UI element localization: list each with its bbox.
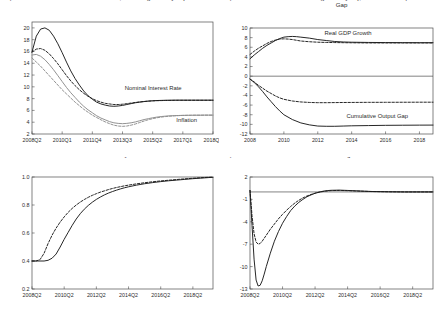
- x-tick-label: 2014Q2: [338, 292, 357, 298]
- chart-svg-real-exchange-rate: Real Exchange Rateb2-1-4-7-10-132008Q220…: [220, 157, 439, 313]
- x-tick-label: 2017Q1: [173, 137, 192, 143]
- chart-panel-real-exchange-rate: Real Exchange Rateb2-1-4-7-10-132008Q220…: [220, 157, 439, 313]
- chart-svg-credibility-stock: Credibility Stock1.00.80.60.40.22008Q220…: [0, 157, 219, 313]
- y-axis-label: (per cent): [0, 0, 12, 1]
- x-tick-label: 2012Q2: [87, 292, 106, 298]
- x-tick-label: 2012Q2: [306, 292, 325, 298]
- x-tick-label: 2008Q2: [241, 292, 260, 298]
- x-tick-label: 2018: [414, 137, 426, 143]
- series-line: [32, 54, 213, 123]
- y-tick-label: -8: [243, 112, 248, 118]
- x-tick-label: 2012: [312, 137, 324, 143]
- y-tick-label: 2: [27, 131, 30, 137]
- y-tick-label: 4: [245, 54, 248, 60]
- chart-title: Nominal Interest Rate; Inflation (year-o…: [60, 0, 186, 1]
- y-tick-label: -10: [240, 121, 248, 127]
- y-tick-label: 8: [245, 35, 248, 41]
- y-tick-label: 0.6: [22, 230, 30, 236]
- y-tick-label: 6: [245, 44, 248, 50]
- x-tick-label: 2010Q1: [53, 137, 72, 143]
- series-line: [250, 36, 433, 58]
- figure-panel-grid: Nominal Interest Rate; Inflation (year-o…: [0, 0, 439, 313]
- series-line: [32, 28, 213, 106]
- x-tick-label: 2016Q2: [371, 292, 390, 298]
- y-tick-label: 2: [245, 174, 248, 180]
- y-tick-label: 0: [245, 73, 248, 79]
- series-annotation-label: Nominal Interest Rate: [125, 85, 183, 91]
- y-tick-label: 20: [24, 25, 30, 31]
- x-tick-label: 2018Q4: [204, 137, 219, 143]
- y-tick-label: 14: [24, 60, 30, 66]
- y-tick-label: 18: [24, 37, 30, 43]
- series-annotation-label: Real GDP Growth: [325, 30, 372, 36]
- x-tick-label: 2010Q2: [55, 292, 74, 298]
- x-tick-label: 2010: [278, 137, 290, 143]
- chart-panel-nominal-interest-inflation: Nominal Interest Rate; Inflation (year-o…: [0, 0, 219, 156]
- x-tick-label: 2013Q3: [113, 137, 132, 143]
- plot-frame: [32, 177, 213, 289]
- chart-title: Credibility Stock: [100, 157, 145, 158]
- series-line: [250, 190, 433, 286]
- chart-title: Real Exchange Rateb: [312, 157, 371, 158]
- y-tick-label: 8: [27, 96, 30, 102]
- x-tick-label: 2015Q2: [143, 137, 162, 143]
- y-axis-label: (per cent): [220, 157, 232, 158]
- x-tick-label: 2010Q2: [273, 292, 292, 298]
- series-line: [250, 190, 433, 244]
- y-tick-label: -1: [243, 196, 248, 202]
- y-tick-label: 10: [24, 84, 30, 90]
- series-annotation-label: Inflation: [176, 117, 197, 123]
- y-tick-label: -4: [243, 92, 248, 98]
- y-tick-label: 4: [27, 119, 30, 125]
- x-tick-label: 2014Q2: [119, 292, 138, 298]
- series-line: [32, 49, 213, 105]
- y-tick-label: -10: [240, 264, 248, 270]
- series-annotation-label: Cumulative Output Gap: [347, 113, 409, 119]
- y-tick-label: -6: [243, 102, 248, 108]
- chart-panel-credibility-stock: Credibility Stock1.00.80.60.40.22008Q220…: [0, 157, 219, 313]
- y-tick-label: 12: [24, 72, 30, 78]
- x-tick-label: 2016Q2: [151, 292, 170, 298]
- y-tick-label: 2: [245, 63, 248, 69]
- x-tick-label: 2016: [380, 137, 392, 143]
- y-tick-label: -4: [243, 219, 248, 225]
- y-tick-label: 6: [27, 107, 30, 113]
- x-tick-label: 2018Q2: [183, 292, 202, 298]
- y-tick-label: -12: [240, 131, 248, 137]
- x-tick-label: 2008Q2: [23, 292, 42, 298]
- y-tick-label: 0.2: [22, 286, 30, 292]
- y-tick-label: 1.0: [22, 174, 30, 180]
- y-tick-label: 10: [242, 25, 248, 31]
- x-tick-label: 2014: [346, 137, 358, 143]
- x-tick-label: 2011Q4: [83, 137, 102, 143]
- x-tick-label: 2018Q2: [403, 292, 422, 298]
- chart-svg-gdp-growth-output-gap: Real GDP Growth (year-on-year); Cumulati…: [220, 0, 439, 156]
- series-line: [250, 79, 433, 103]
- y-tick-label: -13: [240, 286, 248, 292]
- y-tick-label: 0.8: [22, 202, 30, 208]
- y-tick-label: 16: [24, 48, 30, 54]
- y-tick-label: -2: [243, 83, 248, 89]
- series-line: [250, 39, 433, 55]
- y-tick-label: -7: [243, 241, 248, 247]
- y-axis-label: (per cent): [220, 0, 232, 1]
- chart-title: Real GDP Growth (year-on-year); Cumulati…: [269, 0, 414, 8]
- chart-panel-gdp-growth-output-gap: Real GDP Growth (year-on-year); Cumulati…: [220, 0, 439, 156]
- series-line: [32, 177, 213, 261]
- x-tick-label: 2008: [244, 137, 256, 143]
- y-tick-label: 0.4: [22, 258, 30, 264]
- chart-svg-nominal-interest-inflation: Nominal Interest Rate; Inflation (year-o…: [0, 0, 219, 156]
- x-tick-label: 2008Q2: [23, 137, 42, 143]
